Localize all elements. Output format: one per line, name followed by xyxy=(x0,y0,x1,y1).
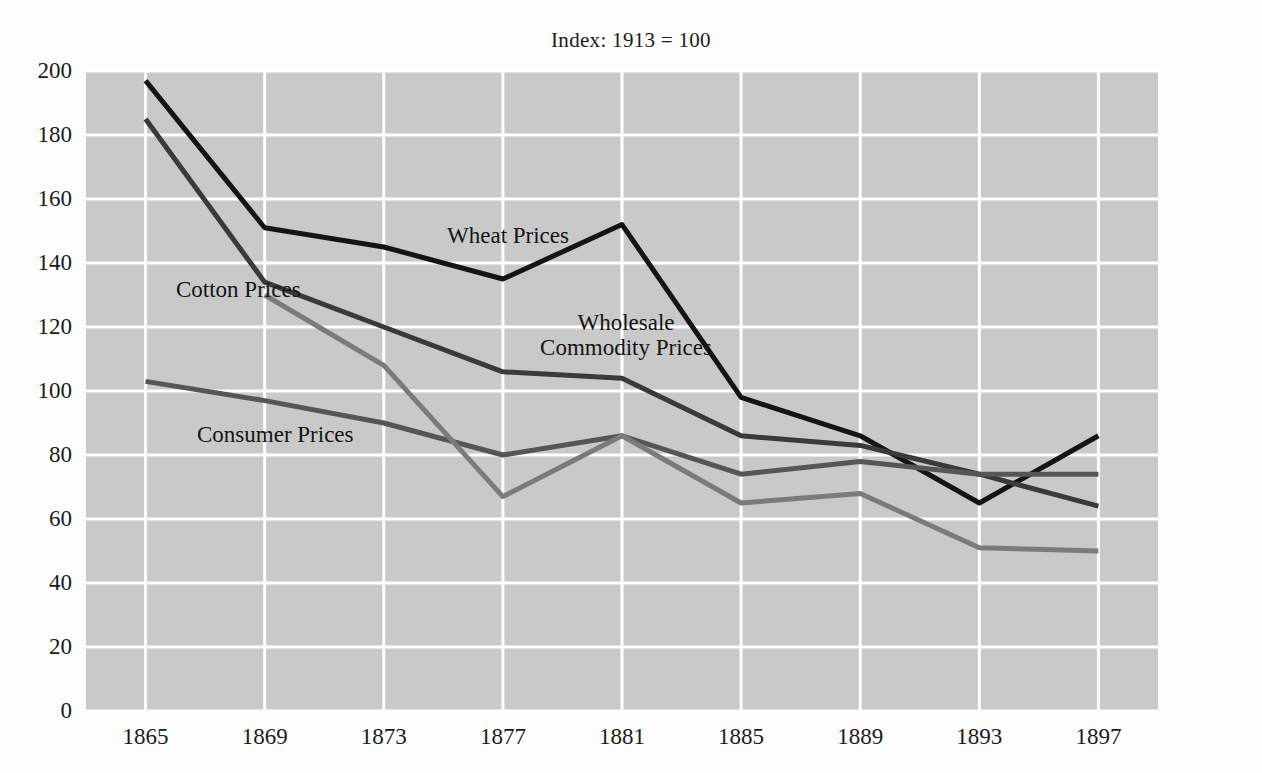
y-axis-tick-label: 160 xyxy=(10,187,72,210)
y-axis-tick-label: 180 xyxy=(10,123,72,146)
x-axis-tick-label: 1889 xyxy=(800,725,920,748)
y-axis-tick-label: 140 xyxy=(10,251,72,274)
chart-figure: Index: 1913 = 100 0204060801001201401601… xyxy=(0,0,1262,773)
y-axis-tick-label: 80 xyxy=(10,443,72,466)
plot-area xyxy=(0,0,1262,773)
x-axis-tick-label: 1873 xyxy=(324,725,444,748)
y-axis-tick-label: 100 xyxy=(10,379,72,402)
x-axis-tick-label: 1885 xyxy=(681,725,801,748)
x-axis-tick-label: 1877 xyxy=(443,725,563,748)
annotation-wheat-prices: Wheat Prices xyxy=(447,224,569,249)
x-axis-tick-label: 1869 xyxy=(205,725,325,748)
x-axis-tick-label: 1897 xyxy=(1038,725,1158,748)
annotation-wholesale-commodity-prices: Wholesale Commodity Prices xyxy=(426,311,826,361)
x-axis-tick-label: 1893 xyxy=(919,725,1039,748)
x-axis-tick-label: 1881 xyxy=(562,725,682,748)
annotation-consumer-prices: Consumer Prices xyxy=(197,423,354,448)
y-axis-tick-label: 40 xyxy=(10,571,72,594)
x-axis-tick-label: 1865 xyxy=(86,725,206,748)
annotation-cotton-prices: Cotton Prices xyxy=(176,278,301,303)
y-axis-tick-label: 200 xyxy=(10,59,72,82)
y-axis-tick-label: 20 xyxy=(10,635,72,658)
y-axis-tick-label: 60 xyxy=(10,507,72,530)
y-axis-tick-label: 120 xyxy=(10,315,72,338)
y-axis-tick-label: 0 xyxy=(10,699,72,722)
